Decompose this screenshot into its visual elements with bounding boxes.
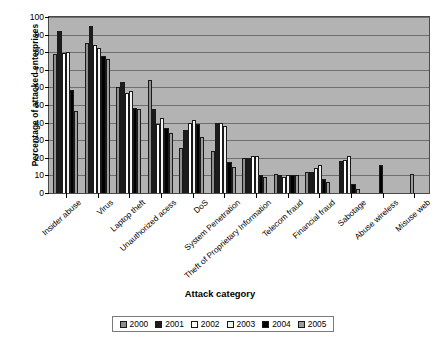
y-axis-tick-label: 100: [7, 12, 49, 22]
bar: [232, 167, 236, 193]
bar: [295, 175, 299, 193]
bar-group: [365, 17, 397, 193]
legend-item: 2004: [262, 319, 291, 329]
y-axis-tick-label: 10: [7, 170, 49, 180]
bar-group: [239, 17, 271, 193]
y-axis-tick-label: 0: [7, 188, 49, 198]
bar: [263, 177, 267, 193]
legend-label: 2005: [308, 319, 327, 329]
bar: [410, 174, 414, 193]
legend-item: 2001: [155, 319, 184, 329]
x-axis-category-label: Insider abuse: [41, 198, 84, 238]
plot-area: 0102030405060708090100: [48, 16, 430, 194]
x-axis-title: Attack category: [0, 288, 440, 299]
bar-group: [334, 17, 366, 193]
legend-item: 2002: [191, 319, 220, 329]
legend-item: 2000: [120, 319, 149, 329]
x-axis-category-label: DoS: [192, 198, 210, 215]
legend-item: 2005: [298, 319, 327, 329]
bar-group: [271, 17, 303, 193]
x-axis-category-label: System Penetration: [183, 198, 242, 252]
legend-label: 2004: [272, 319, 291, 329]
bar: [137, 109, 141, 193]
bar-group: [302, 17, 334, 193]
bar: [326, 182, 330, 193]
bar-group: [397, 17, 429, 193]
y-axis-tick-label: 60: [7, 82, 49, 92]
legend-swatch: [191, 321, 198, 328]
bar: [106, 59, 110, 193]
y-axis-tick-label: 40: [7, 118, 49, 128]
legend-label: 2003: [237, 319, 256, 329]
y-axis-tick-mark: [45, 193, 49, 194]
legend-swatch: [227, 321, 234, 328]
legend-swatch: [298, 321, 305, 328]
y-axis-tick-label: 90: [7, 30, 49, 40]
legend-label: 2002: [201, 319, 220, 329]
bar-chart-figure: Percentage of attacked enterprises 01020…: [0, 0, 440, 344]
bar: [200, 137, 204, 193]
y-axis-tick-label: 70: [7, 65, 49, 75]
bar: [379, 165, 383, 193]
bar: [74, 111, 78, 193]
legend-label: 2000: [130, 319, 149, 329]
y-axis-tick-label: 20: [7, 153, 49, 163]
bar: [169, 133, 173, 193]
bar-groups: [49, 17, 429, 193]
y-axis-tick-label: 30: [7, 135, 49, 145]
x-axis-category-labels: Insider abuseVirusLaptop theftUnauthoriz…: [48, 196, 430, 286]
legend-label: 2001: [165, 319, 184, 329]
x-axis-category-label: Virus: [95, 198, 115, 217]
bar-group: [208, 17, 240, 193]
bar-group: [113, 17, 145, 193]
y-axis-tick-label: 80: [7, 47, 49, 57]
y-axis-tick-label: 50: [7, 100, 49, 110]
chart-legend: 200020012002200320042005: [112, 316, 334, 332]
legend-swatch: [120, 321, 127, 328]
bar-group: [50, 17, 82, 193]
bar: [356, 189, 360, 193]
legend-swatch: [262, 321, 269, 328]
x-axis-category-label: Unauthorized acess: [119, 198, 179, 253]
bar-group: [176, 17, 208, 193]
bar-group: [82, 17, 114, 193]
legend-swatch: [155, 321, 162, 328]
legend-item: 2003: [227, 319, 256, 329]
bar-group: [145, 17, 177, 193]
